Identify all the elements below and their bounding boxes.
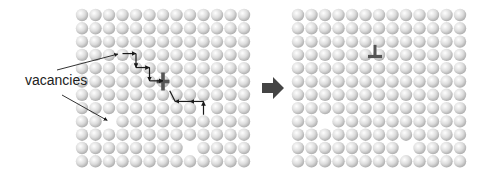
atom [130,129,142,141]
atom [427,35,439,47]
atom [76,129,88,141]
atom [197,62,209,74]
atom [427,22,439,34]
atom [373,75,385,87]
atom [211,115,223,127]
atom [211,62,223,74]
atom [157,102,169,114]
atom [89,142,101,154]
atom [440,62,452,74]
atom [143,102,155,114]
atom [211,142,223,154]
atom [440,35,452,47]
atom [359,102,371,114]
atom [197,49,209,61]
atom [413,22,425,34]
atom [116,75,128,87]
atom [332,49,344,61]
atom [319,35,331,47]
atom [184,129,196,141]
atom [238,35,250,47]
transition-arrow-icon [262,77,284,99]
atom [413,35,425,47]
atom [373,142,385,154]
atom [413,62,425,74]
atom [346,102,358,114]
atom [292,155,304,167]
atom [454,102,466,114]
atom [143,155,155,167]
atom [238,115,250,127]
atom [130,89,142,101]
atom [305,89,317,101]
atom [143,129,155,141]
atom [386,9,398,21]
atom [400,75,412,87]
atom [184,75,196,87]
atom [454,35,466,47]
atom [400,35,412,47]
atom [413,155,425,167]
atom [373,155,385,167]
atom [319,62,331,74]
atom [373,129,385,141]
atom [292,22,304,34]
atom [170,102,182,114]
atom [103,89,115,101]
atom [89,89,101,101]
atom [89,22,101,34]
atom [373,22,385,34]
atom [197,155,209,167]
atom [440,89,452,101]
atom [76,115,88,127]
atom [103,129,115,141]
atom [130,75,142,87]
atom [359,115,371,127]
atom [130,35,142,47]
atom [238,9,250,21]
atom [454,155,466,167]
atom [400,9,412,21]
atom [116,62,128,74]
atom [89,102,101,114]
atom [346,142,358,154]
atom [332,35,344,47]
atom [400,89,412,101]
atom [157,142,169,154]
atom [197,9,209,21]
atom [319,102,331,114]
atom [224,115,236,127]
atom [116,49,128,61]
atom [373,89,385,101]
atom [427,9,439,21]
atom [359,62,371,74]
atom [211,35,223,47]
atom [332,62,344,74]
atom [454,9,466,21]
atom [170,22,182,34]
atom [413,75,425,87]
atom [211,75,223,87]
atom [440,49,452,61]
atom [197,129,209,141]
atom [386,75,398,87]
atom [292,102,304,114]
atom [386,142,398,154]
atom [224,49,236,61]
atom [359,9,371,21]
atom [211,9,223,21]
atom [130,155,142,167]
atom [170,142,182,154]
atom [413,142,425,154]
atom [76,35,88,47]
atom [305,102,317,114]
atom [319,129,331,141]
atom [157,35,169,47]
atom [346,89,358,101]
atom [103,35,115,47]
atom [197,115,209,127]
atom [292,115,304,127]
atom [319,155,331,167]
atom [292,35,304,47]
atom [292,62,304,74]
